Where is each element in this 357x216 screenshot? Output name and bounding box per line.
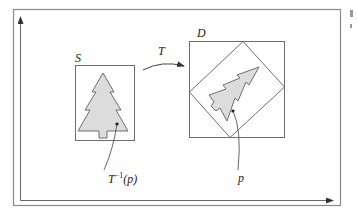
outer-frame — [14, 10, 341, 206]
label-target-point: p — [237, 171, 244, 185]
region-s: S — [75, 51, 135, 141]
cropped-text-fragment — [350, 10, 353, 17]
cropped-text-fragment — [350, 24, 352, 28]
label-t: T — [158, 44, 166, 58]
diagram-canvas: S T D T−1(p) p — [0, 0, 357, 216]
transform-arrow-curve — [143, 64, 184, 70]
leader-target — [233, 111, 239, 170]
label-s: S — [75, 51, 81, 65]
label-preimage-point: T−1(p) — [108, 171, 137, 186]
axes — [21, 17, 334, 201]
label-d: D — [196, 26, 206, 40]
tree-shape-original — [78, 73, 128, 138]
transform-arrow: T — [143, 44, 184, 70]
region-d: D — [190, 26, 285, 138]
